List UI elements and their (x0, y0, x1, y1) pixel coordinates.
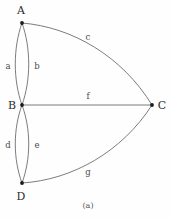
vertex-dot-A (20, 21, 24, 25)
vertex-dot-D (20, 181, 24, 185)
edge-label-d: d (5, 141, 10, 150)
figure-caption: (a) (82, 202, 93, 210)
vertices-group (20, 21, 154, 185)
vertex-label-C: C (158, 100, 166, 111)
edge-label-a: a (5, 62, 10, 71)
edge-e (22, 105, 29, 183)
edges-group (15, 23, 152, 183)
vertex-dot-C (150, 103, 154, 107)
edge-b (22, 23, 29, 105)
edge-label-g: g (85, 168, 90, 177)
vertex-dot-B (20, 103, 24, 107)
vertex-label-D: D (17, 191, 26, 202)
edge-label-c: c (86, 33, 91, 42)
vertex-label-A: A (17, 5, 25, 16)
vertex-label-B: B (8, 100, 16, 111)
edge-label-f: f (86, 92, 89, 101)
figure-container: abcdefg ABCD (a) (0, 0, 171, 220)
edge-d (15, 105, 22, 183)
edge-label-b: b (34, 62, 39, 71)
edge-a (15, 23, 22, 105)
edge-label-e: e (34, 141, 39, 150)
